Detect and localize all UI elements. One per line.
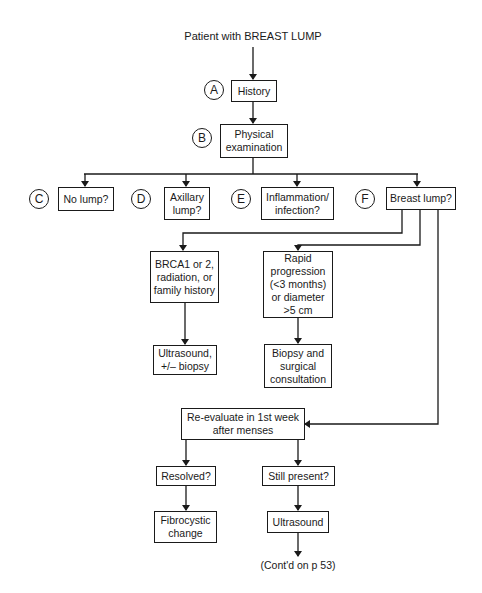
rapid-progression-box: Rapid progression (<3 months) or diamete… xyxy=(263,251,333,318)
breast-lump-box: Breast lump? xyxy=(386,187,456,210)
step-marker-b: B xyxy=(192,128,212,148)
continuation-note: (Cont'd on p 53) xyxy=(252,559,344,571)
axillary-lump-box: Axillary lump? xyxy=(164,187,210,220)
step-marker-d: D xyxy=(131,189,151,209)
still-present-box: Still present? xyxy=(262,466,335,486)
brca-radiation-family-history-box: BRCA1 or 2, radiation, or family history xyxy=(150,251,219,303)
resolved-box: Resolved? xyxy=(156,466,216,486)
physical-examination-box: Physical examination xyxy=(220,124,288,158)
step-marker-e: E xyxy=(231,189,251,209)
inflammation-infection-box: Inflammation/ infection? xyxy=(261,187,334,220)
fibrocystic-change-box: Fibrocystic change xyxy=(154,511,217,543)
step-marker-f: F xyxy=(355,189,375,209)
step-marker-c: C xyxy=(29,189,49,209)
ultrasound-biopsy-box: Ultrasound, +/– biopsy xyxy=(153,345,217,375)
no-lump-box: No lump? xyxy=(58,187,114,211)
reevaluate-box: Re-evaluate in 1st week after menses xyxy=(181,408,305,440)
diagram-title: Patient with BREAST LUMP xyxy=(180,30,326,42)
step-marker-a: A xyxy=(204,80,224,100)
ultrasound-box: Ultrasound xyxy=(267,511,329,533)
biopsy-surgical-consultation-box: Biopsy and surgical consultation xyxy=(264,344,332,388)
history-box: History xyxy=(231,80,277,102)
